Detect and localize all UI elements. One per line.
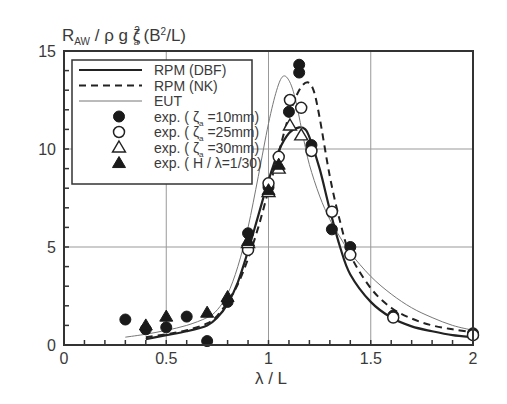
data-point-filled-triangle — [139, 319, 152, 330]
data-point-open-circle — [306, 145, 317, 156]
chart: 00.511.52051015 RAW / ρ g ζ2a (B2/L) λ /… — [0, 0, 507, 404]
data-point-filled-circle — [283, 106, 294, 117]
x-tick-label: 1 — [264, 350, 273, 367]
data-point-filled-circle — [294, 67, 305, 78]
legend-swatch-filled-circle — [114, 111, 125, 122]
data-point-filled-circle — [161, 322, 172, 333]
legend-label: exp. ( H / λ=1/30) — [154, 155, 262, 171]
data-point-open-circle — [296, 102, 307, 113]
x-tick-label: 0.5 — [155, 350, 177, 367]
y-tick-label: 5 — [47, 239, 56, 256]
legend-label-part: exp. ( ζ — [154, 109, 199, 125]
data-point-filled-triangle — [201, 306, 214, 317]
data-point-open-circle — [284, 95, 295, 106]
y-axis-label: RAW / ρ g ζ2a (B2/L) — [62, 25, 186, 47]
data-point-open-circle — [326, 206, 337, 217]
data-point-filled-circle — [120, 314, 131, 325]
x-axis-label: λ / L — [255, 369, 287, 388]
y-label-sub: AW — [74, 36, 90, 47]
y-tick-label: 10 — [38, 141, 56, 158]
legend-label-part: exp. ( ζ — [154, 124, 199, 140]
legend-label-part: =30mm) — [204, 140, 260, 156]
x-tick-label: 1.5 — [360, 350, 382, 367]
data-point-open-circle — [388, 312, 399, 323]
legend-swatch-open-circle — [114, 127, 125, 138]
data-point-filled-circle — [181, 311, 192, 322]
legend-label-part: exp. ( ζ — [154, 140, 199, 156]
legend-label: RPM (DBF) — [154, 62, 226, 78]
y-label-rest2: (B — [139, 26, 161, 45]
legend-label-part: =25mm) — [204, 124, 260, 140]
legend-label: EUT — [154, 93, 182, 109]
y-tick-label: 15 — [38, 43, 56, 60]
legend-label: RPM (NK) — [154, 78, 218, 94]
y-tick-label: 0 — [47, 337, 56, 354]
data-point-filled-circle — [326, 224, 337, 235]
legend-label-part: =10mm) — [204, 109, 260, 125]
y-label-rest3: /L) — [166, 26, 186, 45]
legend: RPM (DBF)RPM (NK)EUTexp. ( ζa =10mm)exp.… — [72, 60, 262, 184]
data-point-filled-triangle — [160, 310, 173, 321]
x-tick-label: 2 — [469, 350, 478, 367]
x-tick-label: 0 — [60, 350, 69, 367]
y-label-main: R — [62, 26, 74, 45]
data-point-open-circle — [345, 249, 356, 260]
